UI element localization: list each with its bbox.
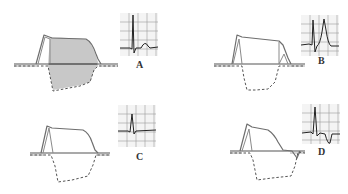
panel-b-label: B: [318, 55, 325, 66]
panel-c-ecg-strip: [118, 105, 156, 147]
panel-a-label: A: [136, 59, 144, 70]
panel-a-action-potentials: [14, 35, 118, 91]
panel-c-label: C: [136, 151, 143, 162]
panel-c: C: [30, 105, 156, 182]
panel-c-transmural-gradient: [30, 155, 110, 182]
panel-d-epicardial-ap: [242, 129, 252, 151]
panel-a: A: [14, 13, 158, 91]
panel-b-endocardial-ap: [232, 35, 291, 64]
panel-d-ecg-background: [302, 104, 340, 144]
panel-c-epicardial-ap: [43, 128, 53, 153]
panel-b-ecg-background: [301, 15, 339, 56]
panel-d-ecg-strip: [302, 104, 340, 144]
panel-b: B: [214, 15, 339, 90]
panel-d-label: D: [318, 146, 325, 157]
panel-a-gradient-shading-lower: [48, 65, 98, 90]
ecg-action-potential-diagram: A B: [0, 0, 348, 194]
panel-a-ecg-strip: [120, 13, 158, 56]
panel-d-transmural-gradient: [230, 152, 305, 180]
panel-b-transmural-gradient: [214, 66, 305, 90]
panel-a-ecg-background: [120, 13, 158, 56]
panel-b-ecg-strip: [301, 15, 339, 56]
panel-d: D: [230, 104, 340, 180]
